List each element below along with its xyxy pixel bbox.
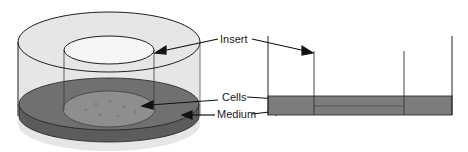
cells-layer xyxy=(63,91,155,127)
transwell-diagram: Insert Cells Medium xyxy=(0,0,468,152)
arrow-head-icon xyxy=(302,46,313,55)
insert-top-opening xyxy=(64,36,154,64)
label-cells: Cells xyxy=(222,91,246,103)
label-insert: Insert xyxy=(220,33,248,45)
label-medium: Medium xyxy=(217,108,256,120)
cross-section-view xyxy=(268,36,452,115)
cylinder-3d-view xyxy=(18,12,200,151)
